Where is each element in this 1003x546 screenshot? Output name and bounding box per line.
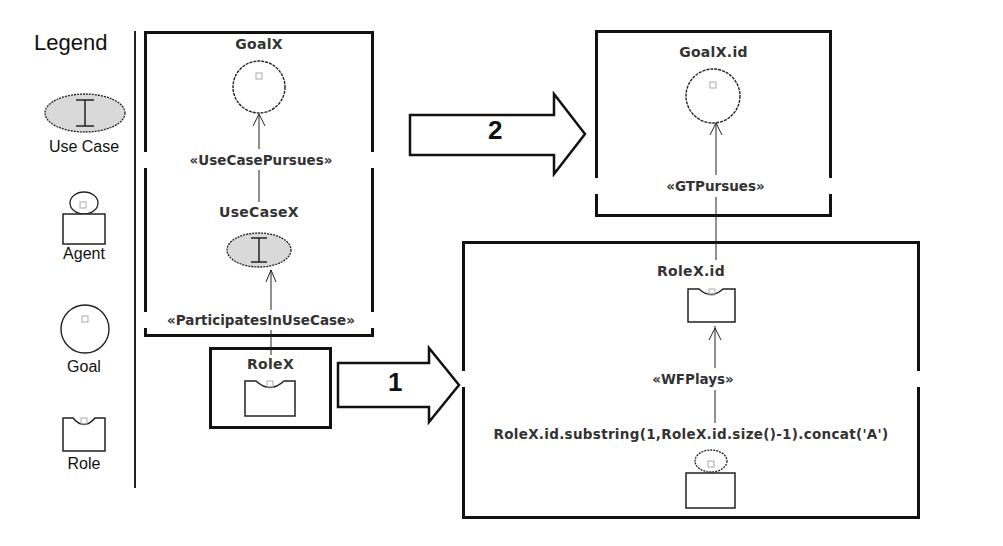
legend-title: Legend: [34, 30, 107, 56]
use-case-x-label: UseCaseX: [144, 204, 374, 220]
role-x-id-icon[interactable]: [685, 286, 739, 326]
gt-pursues-label: «GTPursues»: [595, 178, 836, 194]
role-x-icon[interactable]: [242, 378, 298, 420]
role-x-label: RoleX: [209, 356, 332, 372]
use-case-x-icon[interactable]: [224, 230, 294, 270]
agent-expression-label: RoleX.id.substring(1,RoleX.id.size()-1).…: [462, 426, 920, 442]
legend-label-agent: Agent: [34, 245, 134, 263]
goal-x-id-label: GoalX.id: [595, 44, 832, 60]
transform-arrow-2-number: 2: [488, 115, 502, 146]
role-x-id-label: RoleX.id: [462, 263, 920, 279]
use-case-icon: [42, 92, 128, 136]
legend-label-goal: Goal: [34, 358, 134, 376]
role-icon: [60, 415, 108, 455]
wf-plays-label: «WFPlays»: [462, 371, 924, 387]
use-case-pursues-label: «UseCasePursues»: [144, 152, 378, 168]
transform-arrow-1-number: 1: [388, 367, 402, 398]
agent-icon: [60, 190, 110, 246]
participates-in-use-case-label: «ParticipatesInUseCase»: [144, 312, 378, 328]
legend-label-role: Role: [34, 455, 134, 473]
goal-icon: [58, 302, 112, 356]
agent-icon-target[interactable]: [683, 448, 739, 512]
legend-divider: [134, 31, 136, 488]
goal-x-label: GoalX: [144, 36, 374, 52]
legend-label-use-case: Use Case: [34, 138, 134, 156]
goal-x-id-icon[interactable]: [683, 66, 743, 126]
goal-x-icon[interactable]: [229, 57, 289, 117]
